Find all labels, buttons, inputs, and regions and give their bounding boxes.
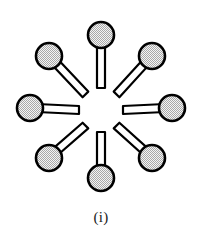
node-n-outline <box>88 22 114 48</box>
node-ne <box>139 43 165 69</box>
node-n <box>88 22 114 48</box>
node-se-outline <box>139 145 165 171</box>
node-nw-outline <box>36 43 62 69</box>
node-e-outline <box>159 95 185 121</box>
node-e <box>159 95 185 121</box>
node-sw <box>36 145 62 171</box>
figure-container: (i) <box>0 0 202 245</box>
radial-node-diagram <box>0 0 202 210</box>
node-w-outline <box>17 95 43 121</box>
node-se <box>139 145 165 171</box>
node-s <box>88 165 114 191</box>
node-w <box>17 95 43 121</box>
node-ne-outline <box>139 43 165 69</box>
node-nw <box>36 43 62 69</box>
node-s-outline <box>88 165 114 191</box>
figure-caption: (i) <box>94 209 109 225</box>
caption-row: (i) <box>0 208 202 226</box>
node-sw-outline <box>36 145 62 171</box>
